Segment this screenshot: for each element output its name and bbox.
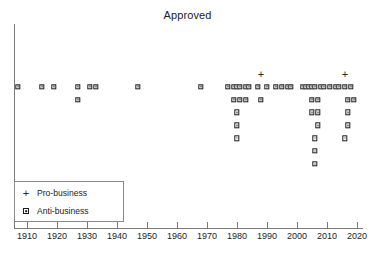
data-point-anti-business: [288, 84, 293, 89]
legend-item-anti-business: Anti-business: [15, 202, 125, 220]
chart-title: Approved: [0, 9, 375, 21]
data-point-anti-business: [315, 110, 320, 115]
x-tick-label: 1960: [167, 231, 187, 241]
data-point-anti-business: [279, 84, 284, 89]
x-tick-label: 1950: [137, 231, 157, 241]
data-point-anti-business: [351, 97, 356, 102]
x-tick: [357, 222, 358, 228]
x-tick: [237, 222, 238, 228]
data-point-anti-business: [234, 135, 239, 140]
data-point-anti-business: [315, 97, 320, 102]
data-point-pro-business: +: [341, 69, 350, 78]
data-point-anti-business: [258, 97, 263, 102]
data-point-anti-business: [75, 84, 80, 89]
data-point-anti-business: [231, 97, 236, 102]
data-point-anti-business: [87, 84, 92, 89]
data-point-anti-business: [312, 84, 317, 89]
data-point-anti-business: [198, 84, 203, 89]
data-point-anti-business: [225, 84, 230, 89]
x-tick-label: 1980: [227, 231, 247, 241]
data-point-anti-business: [234, 110, 239, 115]
chart-legend: + Pro-business Anti-business: [14, 181, 124, 222]
scatter-chart: Approved 1910192019301940195019601970198…: [0, 0, 375, 256]
legend-item-pro-business: + Pro-business: [15, 184, 125, 202]
data-point-anti-business: [264, 84, 269, 89]
x-axis-line: [14, 228, 363, 229]
data-point-anti-business: [234, 123, 239, 128]
plus-icon: +: [15, 186, 37, 200]
data-point-anti-business: [312, 161, 317, 166]
data-point-anti-business: [75, 97, 80, 102]
x-tick: [207, 222, 208, 228]
data-point-anti-business: [246, 84, 251, 89]
data-point-anti-business: [273, 84, 278, 89]
data-point-anti-business: [327, 84, 332, 89]
square-dot-icon: [15, 204, 37, 218]
x-tick: [327, 222, 328, 228]
x-tick-label: 1920: [47, 231, 67, 241]
data-point-anti-business: [15, 84, 20, 89]
legend-label-anti-business: Anti-business: [37, 206, 89, 216]
data-point-anti-business: [336, 84, 341, 89]
x-tick-label: 1910: [17, 231, 37, 241]
x-tick: [57, 222, 58, 228]
data-point-anti-business: [39, 84, 44, 89]
data-point-anti-business: [345, 110, 350, 115]
data-point-anti-business: [51, 84, 56, 89]
data-point-anti-business: [342, 84, 347, 89]
x-tick-label: 1940: [107, 231, 127, 241]
x-tick: [87, 222, 88, 228]
data-point-anti-business: [255, 84, 260, 89]
data-point-anti-business: [315, 123, 320, 128]
x-tick: [177, 222, 178, 228]
x-tick-label: 2020: [347, 231, 367, 241]
x-tick: [117, 222, 118, 228]
data-point-anti-business: [309, 110, 314, 115]
data-point-anti-business: [321, 84, 326, 89]
x-tick-label: 2000: [287, 231, 307, 241]
data-point-anti-business: [237, 97, 242, 102]
data-point-anti-business: [93, 84, 98, 89]
x-tick-label: 1970: [197, 231, 217, 241]
data-point-anti-business: [237, 84, 242, 89]
x-tick: [297, 222, 298, 228]
data-point-anti-business: [135, 84, 140, 89]
x-tick: [267, 222, 268, 228]
data-point-anti-business: [342, 135, 347, 140]
data-point-anti-business: [309, 97, 314, 102]
x-tick-label: 1930: [77, 231, 97, 241]
x-tick: [147, 222, 148, 228]
data-point-anti-business: [243, 97, 248, 102]
x-tick: [27, 222, 28, 228]
x-tick-label: 1990: [257, 231, 277, 241]
data-point-anti-business: [345, 97, 350, 102]
data-point-anti-business: [348, 84, 353, 89]
data-point-anti-business: [312, 148, 317, 153]
x-tick-label: 2010: [317, 231, 337, 241]
data-point-anti-business: [312, 135, 317, 140]
legend-label-pro-business: Pro-business: [37, 188, 87, 198]
data-point-pro-business: +: [257, 69, 266, 78]
data-point-anti-business: [345, 123, 350, 128]
